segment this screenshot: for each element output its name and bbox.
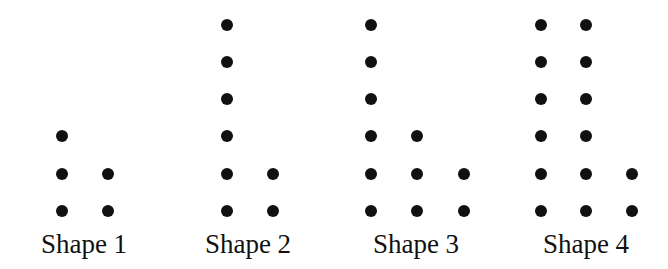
dot (458, 205, 470, 217)
dot (365, 56, 377, 68)
dot (580, 56, 592, 68)
dot (365, 130, 377, 142)
dot (580, 19, 592, 31)
dot (221, 130, 233, 142)
dot (365, 93, 377, 105)
dot (221, 56, 233, 68)
dot (535, 130, 547, 142)
dot (535, 19, 547, 31)
dot (221, 205, 233, 217)
dot (221, 19, 233, 31)
dot (411, 168, 423, 180)
dot (411, 205, 423, 217)
dot (535, 168, 547, 180)
dot (580, 130, 592, 142)
dot (56, 205, 68, 217)
dot (267, 168, 279, 180)
dot (626, 168, 638, 180)
dot (458, 168, 470, 180)
dot-pattern-figure: Shape 1 Shape 2 Shape 3 Shape 4 (0, 0, 668, 269)
dot (221, 93, 233, 105)
dot (580, 93, 592, 105)
dot (580, 205, 592, 217)
dot (267, 205, 279, 217)
shape-1-label: Shape 1 (41, 228, 127, 260)
dot (56, 168, 68, 180)
dot (535, 93, 547, 105)
shape-3-label: Shape 3 (373, 228, 459, 260)
dot (365, 168, 377, 180)
shape-2-label: Shape 2 (205, 228, 291, 260)
dot (626, 205, 638, 217)
dot (365, 19, 377, 31)
dot (411, 130, 423, 142)
dot (56, 130, 68, 142)
dot (102, 168, 114, 180)
dot (365, 205, 377, 217)
dot (580, 168, 592, 180)
dot (221, 168, 233, 180)
dot (535, 205, 547, 217)
dot (535, 56, 547, 68)
shape-4-label: Shape 4 (543, 228, 629, 260)
dot (102, 205, 114, 217)
